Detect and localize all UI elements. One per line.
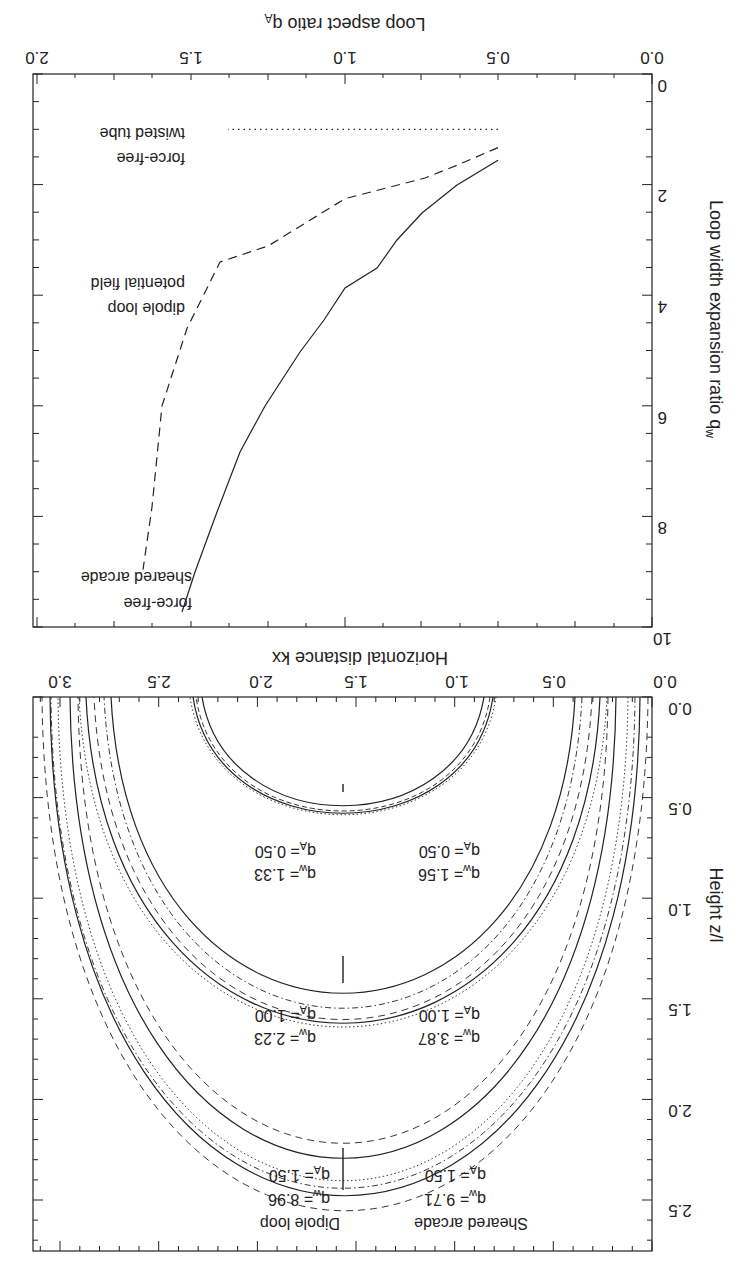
svg-text:Horizontal distance kx: Horizontal distance kx <box>272 648 448 668</box>
svg-text:qA= 1.50: qA= 1.50 <box>425 1164 486 1184</box>
svg-text:qw= 3.87: qw= 3.87 <box>418 1027 480 1047</box>
svg-text:0.0: 0.0 <box>668 699 692 718</box>
svg-text:0.0: 0.0 <box>653 672 677 691</box>
svg-text:qA= 1.50: qA= 1.50 <box>269 1164 330 1184</box>
svg-text:1.0: 1.0 <box>668 900 692 919</box>
top-qw-axis-label: Loop width expansion ratio qw <box>703 200 726 438</box>
svg-text:potential field: potential field <box>91 275 185 292</box>
svg-text:Loop aspect ratio qA: Loop aspect ratio qA <box>264 11 425 34</box>
svg-text:qw= 1.56: qw= 1.56 <box>418 863 480 883</box>
top-qa-tick-labels: 0.0 0.5 1.0 1.5 2.0 <box>25 48 664 67</box>
svg-text:2.0: 2.0 <box>249 672 273 691</box>
svg-text:1.0: 1.0 <box>445 672 469 691</box>
svg-text:qw= 2.23: qw= 2.23 <box>254 1027 316 1047</box>
svg-text:10: 10 <box>653 629 672 648</box>
svg-text:2.0: 2.0 <box>25 48 49 67</box>
svg-text:0: 0 <box>658 76 667 95</box>
svg-text:qA= 1.00: qA= 1.00 <box>255 1004 316 1024</box>
svg-text:qA= 0.50: qA= 0.50 <box>255 840 316 860</box>
bottom-z-tick-labels: 0.0 0.5 1.0 1.5 2.0 2.5 <box>668 699 692 1220</box>
svg-text:1.5: 1.5 <box>668 1000 692 1019</box>
svg-text:0.5: 0.5 <box>668 799 692 818</box>
bottom-kx-tick-labels: 0.0 0.5 1.0 1.5 2.0 2.5 3.0 <box>48 672 677 691</box>
svg-text:dipole loop: dipole loop <box>108 300 186 317</box>
svg-text:qw= 8.96: qw= 8.96 <box>268 1188 330 1208</box>
svg-text:Loop width expansion ratio qw: Loop width expansion ratio qw <box>703 200 726 438</box>
curve-dipole-loop <box>143 148 498 570</box>
svg-text:twisted tube: twisted tube <box>100 125 185 142</box>
svg-text:1.5: 1.5 <box>179 48 203 67</box>
svg-text:qw= 9.71: qw= 9.71 <box>424 1188 486 1208</box>
svg-text:qA= 1.00: qA= 1.00 <box>419 1004 480 1024</box>
svg-text:2.0: 2.0 <box>668 1101 692 1120</box>
svg-text:force-free: force-free <box>123 595 192 612</box>
svg-text:force-free: force-free <box>116 150 185 167</box>
svg-text:qA= 0.50: qA= 0.50 <box>419 840 480 860</box>
curve-sheared-arcade <box>182 160 498 612</box>
svg-text:3.0: 3.0 <box>48 672 72 691</box>
svg-text:1.0: 1.0 <box>333 48 357 67</box>
svg-text:8: 8 <box>658 518 667 537</box>
bottom-kx-ticks <box>40 697 652 1251</box>
svg-text:2: 2 <box>658 186 667 205</box>
svg-text:Height z/l: Height z/l <box>706 867 726 942</box>
svg-text:6: 6 <box>658 408 667 427</box>
svg-text:0.5: 0.5 <box>486 48 510 67</box>
svg-text:qw= 1.33: qw= 1.33 <box>254 863 316 883</box>
bottom-panel <box>33 697 652 1251</box>
top-qa-axis-label: Loop aspect ratio qA <box>264 11 425 34</box>
figure: 0.0 0.5 1.0 1.5 2.0 Loop aspect ratio qA… <box>0 0 740 1272</box>
bottom-kx-axis-label: Horizontal distance kx <box>272 648 448 668</box>
svg-text:Dipole loop: Dipole loop <box>260 1215 340 1232</box>
loops-medium <box>79 697 607 1027</box>
top-qw-tick-labels: 0 2 4 6 8 10 <box>653 76 672 648</box>
bottom-z-axis-label: Height z/l <box>706 867 726 942</box>
loops-large <box>42 697 648 1211</box>
svg-text:sheared arcade: sheared arcade <box>81 569 192 586</box>
svg-text:4: 4 <box>658 297 667 316</box>
top-annotations: twisted tube force-free potential field … <box>81 125 192 612</box>
svg-text:2.5: 2.5 <box>668 1201 692 1220</box>
svg-text:0.0: 0.0 <box>640 48 664 67</box>
svg-text:Sheared arcade: Sheared arcade <box>414 1215 528 1232</box>
loops-small <box>190 697 496 815</box>
svg-text:0.5: 0.5 <box>542 672 566 691</box>
bottom-annotations: qA= 0.50 qw= 1.56 qA= 0.50 qw= 1.33 qA= … <box>254 840 528 1232</box>
svg-text:1.5: 1.5 <box>344 672 368 691</box>
svg-text:2.5: 2.5 <box>147 672 171 691</box>
